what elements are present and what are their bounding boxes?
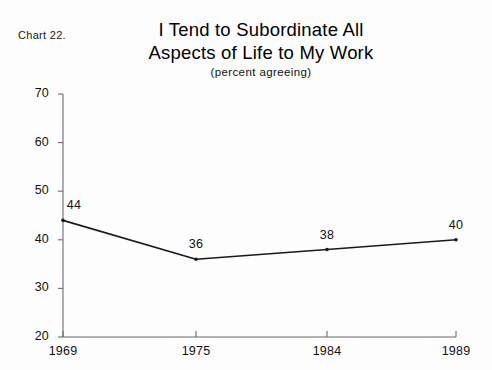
data-point-value-label: 44	[54, 198, 94, 212]
x-axis-tick-label: 1969	[33, 344, 93, 358]
y-axis-ticks	[58, 94, 63, 337]
data-series-line	[63, 220, 456, 259]
x-axis-tick-label: 1975	[166, 344, 226, 358]
y-axis-tick-label: 50	[15, 183, 49, 197]
y-axis-tick-label: 30	[15, 280, 49, 294]
data-point-marker	[61, 219, 65, 223]
chart-container: Chart 22. I Tend to Subordinate All Aspe…	[0, 0, 492, 370]
plot-area	[0, 0, 492, 370]
data-point-value-label: 38	[307, 228, 347, 242]
data-point-value-label: 40	[436, 218, 476, 232]
x-axis	[63, 331, 456, 337]
x-axis-tick-label: 1984	[297, 344, 357, 358]
data-point-marker	[194, 257, 198, 261]
y-axis-tick-label: 40	[15, 232, 49, 246]
x-axis-ticks	[63, 331, 456, 337]
data-point-marker	[454, 238, 458, 242]
y-axis-tick-label: 70	[15, 86, 49, 100]
y-axis	[58, 94, 63, 337]
y-axis-tick-label: 60	[15, 135, 49, 149]
x-axis-tick-label: 1989	[426, 344, 486, 358]
y-axis-tick-label: 20	[15, 329, 49, 343]
data-point-value-label: 36	[176, 237, 216, 251]
data-point-marker	[325, 248, 329, 252]
